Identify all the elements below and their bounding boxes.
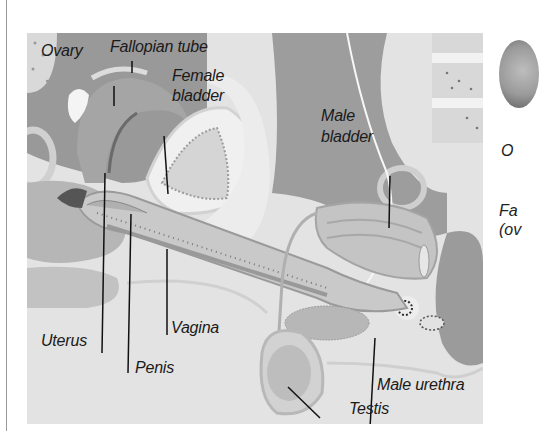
anatomy-artwork	[27, 33, 483, 424]
side-label-partial-1: O	[501, 141, 513, 160]
label-male-bladder-line1: Male	[321, 106, 355, 125]
anatomy-illustration	[27, 33, 483, 424]
label-ovary: Ovary	[41, 41, 83, 60]
label-male-urethra: Male urethra	[377, 375, 464, 394]
label-testis: Testis	[349, 399, 389, 418]
label-penis: Penis	[135, 358, 174, 377]
label-female-bladder-line2: bladder	[172, 86, 224, 105]
label-fallopian-tube: Fallopian tube	[110, 37, 208, 56]
label-vagina: Vagina	[171, 318, 219, 337]
label-female-bladder-line1: Female	[172, 66, 224, 85]
label-uterus: Uterus	[41, 331, 87, 350]
side-label-partial-2-line1: Fa	[499, 201, 518, 220]
ovary-thumbnail-icon	[499, 40, 539, 108]
label-male-bladder-line2: bladder	[321, 127, 373, 146]
side-label-partial-2-line2: (ov	[499, 220, 521, 239]
page-margin-rule	[6, 0, 7, 431]
